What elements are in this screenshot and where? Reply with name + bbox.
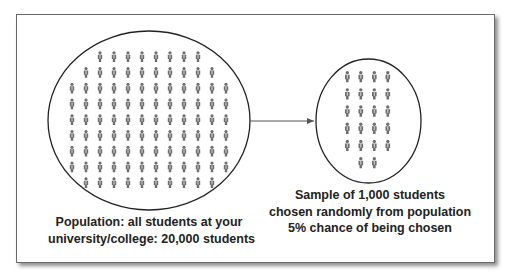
population-caption-line-2: university/college: 20,000 students bbox=[48, 231, 250, 248]
sample-caption-line-2: chosen randomly from population bbox=[260, 204, 480, 221]
sample-caption: Sample of 1,000 students chosen randomly… bbox=[260, 187, 480, 237]
sample-caption-line-1: Sample of 1,000 students bbox=[260, 187, 480, 204]
sample-ellipse bbox=[316, 59, 421, 183]
sample-caption-line-3: 5% chance of being chosen bbox=[260, 220, 480, 237]
population-caption-line-1: Population: all students at your bbox=[48, 214, 250, 231]
population-caption: Population: all students at your univers… bbox=[48, 214, 250, 247]
population-ellipse bbox=[48, 31, 250, 210]
